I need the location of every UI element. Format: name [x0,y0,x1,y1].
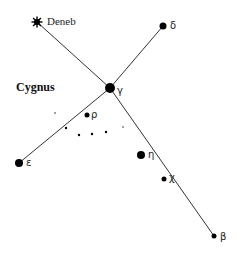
label-eta: η [148,150,154,160]
label-chi: χ [169,173,175,183]
star-beta-icon [212,234,217,239]
star-gamma-icon [105,83,115,93]
star-delta-icon [160,23,167,30]
label-beta: β [220,232,226,242]
star-map [0,0,240,258]
star-chi-icon [162,177,167,182]
minor-star-icon [78,134,80,136]
constellation-line [110,88,214,236]
constellation-line [110,26,163,88]
star-burst-icon [32,17,43,28]
label-epsilon: ε [26,158,31,168]
star-rho-icon [85,113,90,118]
label-delta: δ [170,21,176,31]
cygnus-constellation-diagram: Cygnus Deneb δ γ ε ρ η χ β [0,0,240,258]
minor-star-icon [105,131,107,133]
constellation-line [19,88,110,163]
minor-star-icon [91,133,93,135]
minor-star-icon [54,112,55,113]
minor-star-icon [122,126,123,127]
constellation-title: Cygnus [16,81,55,93]
label-rho: ρ [91,110,97,120]
constellation-line [37,22,110,88]
label-deneb: Deneb [47,16,76,27]
minor-star-icon [65,127,67,129]
label-gamma: γ [117,86,123,96]
star-epsilon-icon [15,159,23,167]
star-eta-icon [137,151,145,159]
